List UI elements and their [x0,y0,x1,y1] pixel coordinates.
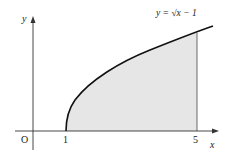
tick-label-1: 1 [63,135,68,145]
curve-label: y = √x − 1 [156,9,197,19]
y-axis-arrow-icon [31,16,36,23]
y-axis-label: y [22,14,26,24]
x-axis-label: x [210,140,214,150]
origin-label: O [21,135,28,145]
x-axis-arrow-icon [212,129,219,134]
tick-label-5: 5 [193,135,198,145]
shaded-region [66,33,197,131]
